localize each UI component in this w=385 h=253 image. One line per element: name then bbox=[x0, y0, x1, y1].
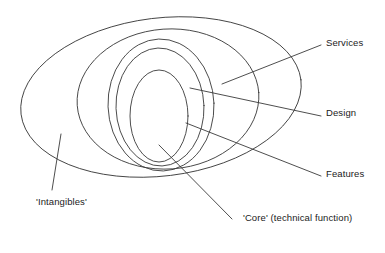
label-intangibles: 'Intangibles' bbox=[36, 196, 87, 207]
ring-features-ellipse bbox=[114, 47, 206, 168]
leader-line-design bbox=[190, 88, 321, 116]
label-services: Services bbox=[326, 37, 363, 48]
leader-line-intangibles bbox=[52, 134, 61, 190]
ring-core-ellipse bbox=[130, 70, 188, 162]
ring-services-ellipse bbox=[72, 23, 263, 175]
label-design: Design bbox=[326, 107, 356, 118]
ring-design-ellipse bbox=[106, 37, 217, 173]
diagram-canvas: Services Design Features 'Core' (technic… bbox=[0, 0, 385, 253]
label-features: Features bbox=[326, 168, 364, 179]
label-core: 'Core' (technical function) bbox=[243, 212, 352, 223]
